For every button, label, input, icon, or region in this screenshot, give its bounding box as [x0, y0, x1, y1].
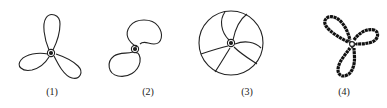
blade-upper-left: [325, 17, 350, 42]
propeller-two-blade-icon: [100, 0, 196, 82]
figure-3: (3): [199, 0, 295, 108]
figure-1: (1): [4, 0, 100, 108]
propeller-with-guard-icon: [199, 0, 295, 82]
figure-label: (4): [296, 86, 387, 97]
hub-inner: [50, 52, 53, 55]
figure-label: (1): [4, 86, 100, 97]
figure-2: (2): [100, 0, 196, 108]
blade-upper: [127, 20, 161, 47]
blade-lower: [109, 52, 140, 76]
blade-right: [54, 54, 81, 78]
blade-left: [19, 53, 49, 70]
figure-label: (3): [199, 86, 295, 97]
blade-top: [222, 12, 247, 40]
blade-right: [234, 42, 261, 64]
propeller-three-blade-icon: [4, 0, 100, 82]
hub-outer: [350, 42, 355, 47]
blade-left: [201, 46, 230, 72]
figure-4: (4): [296, 0, 387, 108]
figure-label: (2): [100, 86, 196, 97]
hub-inner: [134, 48, 137, 51]
blade-upper-right: [354, 30, 378, 44]
hub-inner: [230, 42, 233, 45]
propeller-rough-three-blade-icon: [296, 0, 387, 82]
blade-bottom: [338, 48, 355, 76]
blade-top: [44, 15, 60, 50]
